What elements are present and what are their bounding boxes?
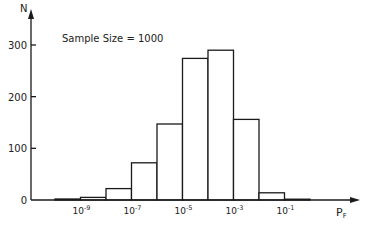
- histogram-bar: [259, 193, 285, 200]
- y-tick-label: 200: [8, 92, 27, 103]
- y-axis-arrow-icon: [28, 9, 34, 19]
- histogram-bar: [208, 50, 234, 200]
- y-tick-label: 300: [8, 40, 27, 51]
- x-tick-label: 10-7: [124, 204, 142, 216]
- x-axis-ticks: 10-910-710-510-310-1: [73, 204, 295, 216]
- x-axis-arrow-icon: [350, 197, 360, 203]
- x-tick-label: 10-1: [277, 204, 295, 216]
- y-axis-label: N: [20, 3, 27, 14]
- histogram-bar: [106, 189, 132, 200]
- histogram-bar: [183, 58, 209, 200]
- histogram-bar: [157, 124, 183, 200]
- y-tick-label: 0: [21, 195, 27, 206]
- y-axis-ticks: 0100200300: [8, 40, 36, 206]
- y-tick-label: 100: [8, 143, 27, 154]
- histogram-bar: [132, 163, 158, 200]
- x-axis-label-subscript: F: [343, 212, 347, 220]
- histogram-chart: 0100200300 10-910-710-510-310-1 N Sample…: [0, 0, 368, 226]
- histogram-bar: [234, 119, 260, 200]
- x-tick-label: 10-9: [73, 204, 91, 216]
- x-axis-label: PF: [336, 206, 347, 220]
- x-tick-label: 10-5: [175, 204, 193, 216]
- x-tick-label: 10-3: [226, 204, 244, 216]
- sample-size-annotation: Sample Size = 1000: [62, 33, 163, 44]
- histogram-bars: [55, 50, 310, 200]
